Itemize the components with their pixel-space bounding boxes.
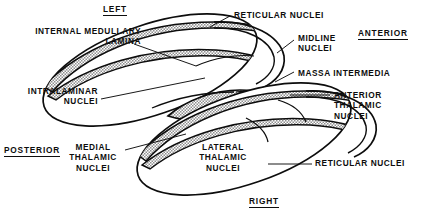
- label-internal-medullary-lamina: INTERNAL MEDULLARY LAMINA: [0, 26, 141, 47]
- label-line: LAMINA: [0, 36, 141, 46]
- thalamus-diagram-figure: LEFT ANTERIOR POSTERIOR RIGHT INTERNAL M…: [0, 0, 429, 214]
- label-lateral-thalamic-nuclei: LATERAL THALAMIC NUCLEI: [186, 142, 260, 173]
- label-line: RETICULAR NUCLEI: [315, 158, 405, 168]
- label-line: INTERNAL MEDULLARY: [0, 26, 141, 36]
- label-reticular-nuclei-top: RETICULAR NUCLEI: [234, 10, 324, 20]
- label-intralaminar-nuclei: INTRALAMINAR NUCLEI: [0, 86, 98, 107]
- label-medial-thalamic-nuclei: MEDIAL THALAMIC NUCLEI: [62, 142, 124, 173]
- label-line: THALAMIC: [186, 152, 260, 162]
- orientation-label-right: RIGHT: [249, 196, 279, 208]
- orientation-label-anterior: ANTERIOR: [358, 28, 408, 40]
- label-line: MASSA INTERMEDIA: [298, 68, 390, 78]
- label-line: NUCLEI: [0, 96, 98, 106]
- orientation-label-left: LEFT: [103, 4, 127, 16]
- label-line: INTRALAMINAR: [0, 86, 98, 96]
- label-line: NUCLEI: [186, 163, 260, 173]
- label-line: LATERAL: [186, 142, 260, 152]
- label-line: NUCLEI: [298, 43, 336, 53]
- label-line: NUCLEI: [62, 163, 124, 173]
- label-line: MEDIAL: [62, 142, 124, 152]
- orientation-label-posterior: POSTERIOR: [4, 145, 60, 157]
- label-massa-intermedia: MASSA INTERMEDIA: [298, 68, 390, 78]
- label-line: MIDLINE: [298, 33, 336, 43]
- label-line: RETICULAR NUCLEI: [234, 10, 324, 20]
- label-line: NUCLEI: [334, 111, 382, 121]
- label-line: THALAMIC: [334, 100, 382, 110]
- label-anterior-thalamic-nuclei: ANTERIOR THALAMIC NUCLEI: [334, 90, 382, 121]
- label-line: ANTERIOR: [334, 90, 382, 100]
- label-reticular-nuclei-bottom: RETICULAR NUCLEI: [315, 158, 405, 168]
- label-midline-nuclei: MIDLINE NUCLEI: [298, 33, 336, 54]
- label-line: THALAMIC: [62, 152, 124, 162]
